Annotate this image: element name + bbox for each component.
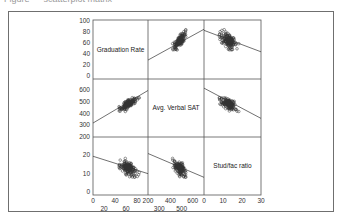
svg-text:40: 40	[111, 197, 119, 204]
svg-text:500: 500	[79, 98, 90, 105]
svg-text:10: 10	[219, 197, 227, 204]
svg-text:20: 20	[100, 205, 108, 212]
svg-text:80: 80	[83, 28, 91, 35]
diagonal-label-2: Stud/fac ratio	[213, 162, 252, 169]
svg-text:300: 300	[79, 121, 90, 128]
svg-text:60: 60	[83, 39, 91, 46]
panel-1-0	[118, 96, 141, 112]
bottom-axis-ticks: 0408020602004006003005000102030	[91, 197, 265, 212]
diagonal-label-1: Avg. Verbal SAT	[152, 104, 199, 112]
scatterplot-matrix: Graduation RateAvg. Verbal SATStud/fac r…	[0, 0, 341, 220]
left-axis-ticks: 10080604020060050040030020020100	[79, 17, 90, 195]
svg-text:100: 100	[79, 17, 90, 24]
svg-text:30: 30	[257, 197, 265, 204]
svg-text:80: 80	[133, 197, 141, 204]
svg-text:20: 20	[83, 151, 91, 158]
diagonal-label-0: Graduation Rate	[97, 46, 145, 53]
svg-text:20: 20	[238, 197, 246, 204]
svg-text:200: 200	[143, 197, 154, 204]
svg-text:10: 10	[83, 170, 91, 177]
svg-text:600: 600	[79, 86, 90, 93]
svg-text:0: 0	[202, 197, 206, 204]
svg-text:500: 500	[176, 205, 187, 212]
svg-text:600: 600	[187, 197, 198, 204]
svg-text:0: 0	[91, 197, 95, 204]
svg-text:400: 400	[165, 197, 176, 204]
svg-text:0: 0	[86, 188, 90, 195]
svg-text:0: 0	[86, 72, 90, 79]
svg-text:60: 60	[122, 205, 130, 212]
svg-text:200: 200	[79, 133, 90, 140]
panel-2-1	[171, 157, 187, 178]
svg-text:400: 400	[79, 110, 90, 117]
svg-text:300: 300	[154, 205, 165, 212]
svg-text:40: 40	[83, 50, 91, 57]
svg-text:20: 20	[83, 61, 91, 68]
panel-1-2	[218, 96, 240, 112]
